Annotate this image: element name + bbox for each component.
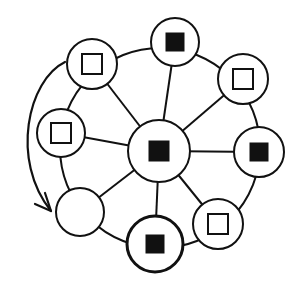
filled-square-icon	[149, 141, 170, 162]
node-top	[151, 18, 199, 66]
node-bottom	[127, 216, 183, 272]
filled-square-icon	[166, 33, 185, 52]
nodes	[37, 18, 284, 272]
node-circle	[218, 54, 268, 104]
filled-square-icon	[146, 235, 165, 254]
node-bottom-right	[193, 199, 243, 249]
node-circle	[67, 39, 117, 89]
node-bottom-left	[56, 188, 104, 236]
node-circle	[37, 109, 85, 157]
node-left	[37, 109, 85, 157]
node-right	[234, 127, 284, 177]
network-diagram	[0, 0, 298, 291]
node-top-right	[218, 54, 268, 104]
center-node	[128, 120, 190, 182]
diagram-canvas	[0, 0, 298, 291]
node-circle	[56, 188, 104, 236]
filled-square-icon	[250, 143, 269, 162]
node-circle	[193, 199, 243, 249]
node-top-left	[67, 39, 117, 89]
